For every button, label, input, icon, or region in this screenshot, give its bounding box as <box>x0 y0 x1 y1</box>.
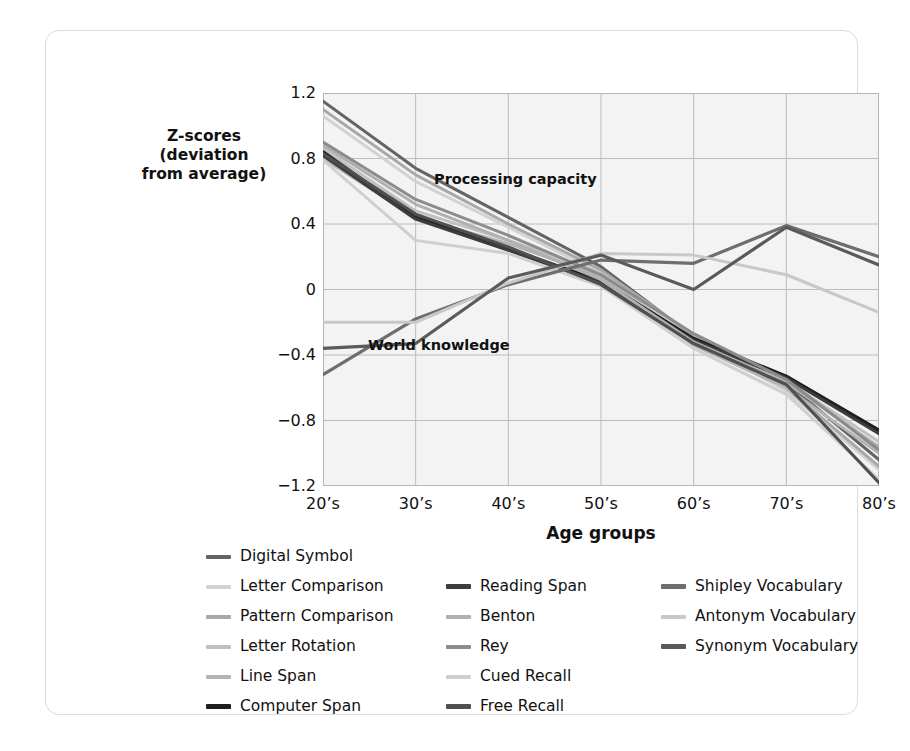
x-tick-label: 80’s <box>862 494 896 513</box>
legend-item-label: Benton <box>480 609 535 625</box>
legend-item-label: Line Span <box>240 669 316 685</box>
plot-area <box>323 93 879 486</box>
legend-item[interactable]: Letter Rotation <box>206 639 356 655</box>
legend-color-swatch <box>206 704 231 709</box>
legend-item[interactable]: Computer Span <box>206 699 361 715</box>
x-axis-title: Age groups <box>323 523 879 543</box>
x-axis-tick-labels: 20’s30’s40’s50’s60’s70’s80’s <box>323 492 879 518</box>
legend-item-label: Letter Rotation <box>240 639 356 655</box>
legend-item-label: Rey <box>480 639 509 655</box>
legend-item[interactable]: Rey <box>446 639 509 655</box>
legend-color-swatch <box>446 704 471 709</box>
legend-item-label: Reading Span <box>480 579 587 595</box>
legend-item[interactable]: Pattern Comparison <box>206 609 394 625</box>
legend-item-label: Antonym Vocabulary <box>695 609 856 625</box>
legend-item[interactable]: Shipley Vocabulary <box>661 579 843 595</box>
legend-color-swatch <box>206 675 231 679</box>
x-tick-label: 30’s <box>399 494 433 513</box>
annotation-processing-capacity: Processing capacity <box>434 171 597 187</box>
legend-item-label: Pattern Comparison <box>240 609 394 625</box>
legend-item-label: Cued Recall <box>480 669 571 685</box>
legend-color-swatch <box>206 645 231 649</box>
legend-color-swatch <box>446 615 471 619</box>
y-axis-tick-labels: 1.20.80.40−0.4−0.8−1.2 <box>244 93 316 486</box>
legend-item[interactable]: Reading Span <box>446 579 587 595</box>
x-tick-label: 50’s <box>584 494 618 513</box>
legend-color-swatch <box>206 555 231 559</box>
legend-color-swatch <box>446 645 471 649</box>
y-tick-label: −1.2 <box>246 478 316 494</box>
annotation-world-knowledge: World knowledge <box>368 337 510 353</box>
chart-legend: Digital SymbolLetter ComparisonPattern C… <box>206 549 896 719</box>
legend-item[interactable]: Synonym Vocabulary <box>661 639 858 655</box>
y-tick-label: −0.4 <box>246 347 316 363</box>
legend-color-swatch <box>661 584 686 589</box>
x-tick-label: 60’s <box>677 494 711 513</box>
plot-lines <box>323 93 879 486</box>
legend-item[interactable]: Letter Comparison <box>206 579 384 595</box>
legend-item[interactable]: Line Span <box>206 669 316 685</box>
legend-color-swatch <box>446 584 471 589</box>
y-tick-label: 0.8 <box>246 151 316 167</box>
y-tick-label: 1.2 <box>246 85 316 101</box>
legend-color-swatch <box>661 644 686 649</box>
x-tick-label: 40’s <box>491 494 525 513</box>
y-tick-label: 0.4 <box>246 216 316 232</box>
gridlines <box>323 93 879 486</box>
legend-color-swatch <box>446 675 471 679</box>
legend-item-label: Synonym Vocabulary <box>695 639 858 655</box>
legend-item-label: Computer Span <box>240 699 361 715</box>
x-tick-label: 20’s <box>306 494 340 513</box>
y-tick-label: 0 <box>246 282 316 298</box>
legend-item[interactable]: Benton <box>446 609 535 625</box>
legend-item[interactable]: Antonym Vocabulary <box>661 609 856 625</box>
legend-item-label: Digital Symbol <box>240 549 353 565</box>
legend-item[interactable]: Free Recall <box>446 699 564 715</box>
legend-color-swatch <box>206 615 231 619</box>
legend-item-label: Shipley Vocabulary <box>695 579 843 595</box>
legend-item[interactable]: Digital Symbol <box>206 549 353 565</box>
legend-color-swatch <box>661 615 686 619</box>
legend-item[interactable]: Cued Recall <box>446 669 571 685</box>
figure-card: Z-scores (deviation from average) 1.20.8… <box>45 30 858 715</box>
x-tick-label: 70’s <box>769 494 803 513</box>
legend-color-swatch <box>206 585 231 589</box>
y-tick-label: −0.8 <box>246 413 316 429</box>
legend-item-label: Letter Comparison <box>240 579 384 595</box>
legend-item-label: Free Recall <box>480 699 564 715</box>
